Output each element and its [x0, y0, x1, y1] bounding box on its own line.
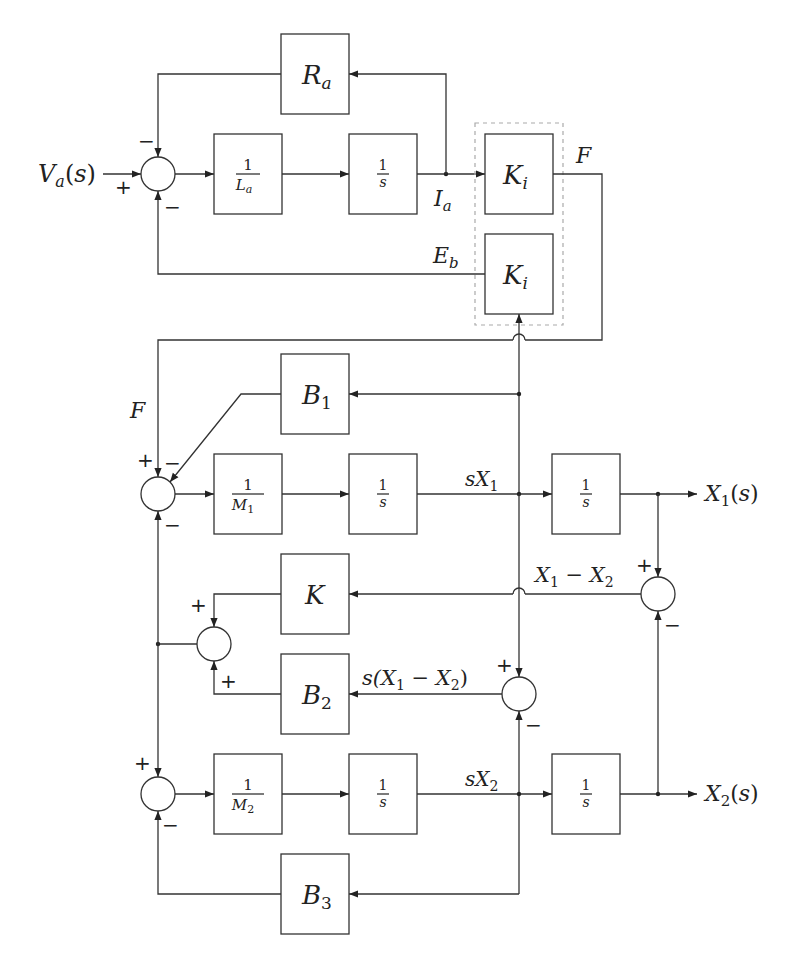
- sign-top-minus-top: −: [138, 129, 155, 153]
- sign-sd-plus-top: +: [190, 593, 207, 617]
- svg-text:1: 1: [243, 476, 253, 494]
- label-F-top: F: [575, 143, 592, 168]
- label-sX1: sX1: [465, 467, 498, 494]
- sign-m2-plus: +: [134, 751, 151, 775]
- sign-veldiff-plus: +: [496, 653, 513, 677]
- summer-m1: [141, 477, 175, 511]
- sign-top-minus-bottom: −: [164, 195, 181, 219]
- label-input-Va: Va(s): [38, 160, 96, 191]
- sign-m2-minus: −: [162, 813, 179, 837]
- label-K: K: [304, 580, 326, 610]
- sign-posdiff-minus: −: [664, 613, 681, 637]
- label-sX2: sX2: [465, 767, 498, 794]
- summer-top: [141, 157, 175, 191]
- label-X1-out: X1(s): [703, 481, 759, 510]
- junction-B1: [517, 392, 521, 396]
- label-F-left: F: [129, 398, 146, 423]
- sign-top-plus: +: [115, 175, 132, 199]
- svg-text:s: s: [379, 174, 386, 190]
- svg-text:1: 1: [582, 477, 591, 493]
- svg-text:s: s: [379, 794, 386, 810]
- svg-text:s: s: [379, 494, 386, 510]
- label-X2-out: X2(s): [703, 781, 759, 810]
- svg-text:1: 1: [243, 156, 253, 174]
- label-Ia: Ia: [433, 186, 452, 215]
- svg-text:1: 1: [243, 776, 253, 794]
- junction-X2: [656, 792, 660, 796]
- line-K-to-summer: [214, 594, 281, 627]
- summer-pos-diff: [641, 577, 675, 611]
- junction-sX2: [517, 792, 521, 796]
- sign-m1-plus: +: [137, 448, 154, 472]
- summer-spring-damper: [197, 627, 231, 661]
- sign-m1-minus-bottom: −: [164, 513, 181, 537]
- label-X1-minus-X2: X1 − X2: [533, 563, 614, 590]
- svg-text:s: s: [582, 494, 589, 510]
- block-diagram: Ra 1 La 1 s Ki Ki B1 1 M1 1 s 1 s K B2 1…: [0, 0, 806, 968]
- sign-posdiff-plus: +: [636, 553, 653, 577]
- sign-veldiff-minus: −: [525, 713, 542, 737]
- label-s-X1-minus-X2: s(X1 − X2): [362, 666, 468, 693]
- svg-text:s: s: [582, 794, 589, 810]
- label-Eb: Eb: [432, 243, 459, 272]
- svg-text:1: 1: [582, 777, 591, 793]
- svg-text:1: 1: [379, 477, 388, 493]
- summer-vel-diff: [502, 677, 536, 711]
- svg-text:1: 1: [379, 777, 388, 793]
- svg-text:1: 1: [379, 157, 388, 173]
- summer-m2: [141, 777, 175, 811]
- sign-m1-minus-top: −: [164, 451, 181, 475]
- sign-sd-plus-bottom: +: [220, 669, 237, 693]
